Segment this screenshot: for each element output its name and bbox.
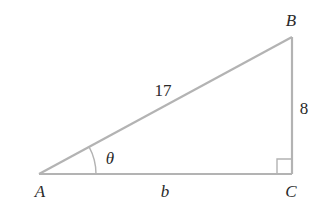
vertex-label-a: A: [35, 183, 45, 200]
hypotenuse-length-label: 17: [155, 82, 172, 99]
angle-theta-arc: [89, 147, 96, 174]
triangle-drawing: [0, 0, 326, 204]
angle-theta-label: θ: [106, 150, 114, 167]
vertex-label-b: B: [286, 12, 296, 29]
right-angle-marker: [277, 159, 292, 174]
adjacent-length-label: b: [161, 183, 170, 200]
side-hypotenuse-17: [39, 37, 292, 174]
opposite-length-label: 8: [300, 100, 309, 117]
vertex-label-c: C: [285, 183, 296, 200]
right-triangle-figure: A B C 17 8 b θ: [0, 0, 326, 204]
